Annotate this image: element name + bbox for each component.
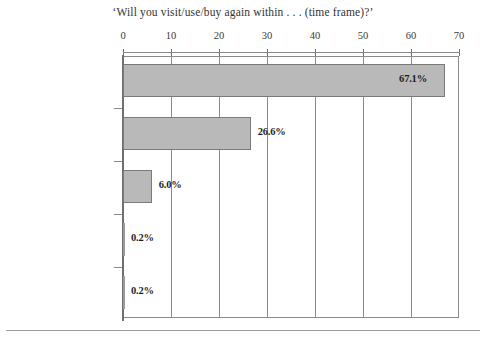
x-tick-label-60: 60 (406, 30, 417, 41)
value-label-definitely-not: 0.2% (131, 285, 154, 296)
plot-area: 67.1% 26.6% 6.0% 0.2% 0.2% (123, 56, 459, 318)
bar-probably-not (123, 223, 125, 256)
x-tick-label-30: 30 (262, 30, 273, 41)
chart-title: ‘Will you visit/use/buy again within . .… (0, 6, 486, 18)
value-label-probably-not: 0.2% (131, 232, 154, 243)
x-tick-label-70: 70 (454, 30, 465, 41)
bar-probably (123, 117, 251, 150)
value-label-probably: 26.6% (258, 126, 286, 137)
row-tick-3 (114, 214, 122, 215)
row-tick-2 (114, 161, 122, 162)
bar-definitely-not (123, 276, 125, 309)
row-tick-4 (114, 267, 122, 268)
x-tick-label-50: 50 (358, 30, 369, 41)
x-tick-label-10: 10 (166, 30, 177, 41)
x-axis-rule (123, 52, 460, 53)
bar-not-sure (123, 170, 152, 203)
x-tick-label-20: 20 (214, 30, 225, 41)
value-label-not-sure: 6.0% (159, 179, 182, 190)
bar-definitely (123, 64, 445, 97)
chart-figure: ‘Will you visit/use/buy again within . .… (0, 0, 486, 342)
figure-bottom-rule (6, 330, 480, 331)
x-tick-label-40: 40 (310, 30, 321, 41)
x-tick-label-0: 0 (120, 30, 125, 41)
row-tick-1 (114, 108, 122, 109)
value-label-definitely: 67.1% (399, 73, 427, 84)
